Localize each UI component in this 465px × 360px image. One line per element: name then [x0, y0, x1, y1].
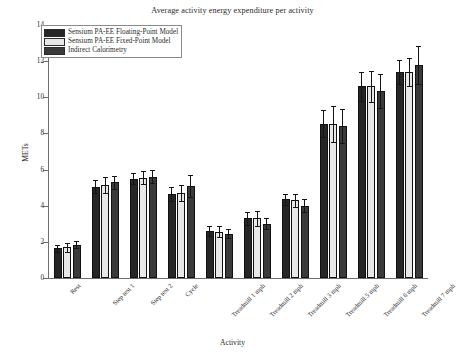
bar[interactable]	[111, 182, 119, 278]
error-bar	[219, 226, 220, 237]
error-bar-cap-bottom	[103, 193, 108, 194]
bar[interactable]	[282, 199, 290, 278]
error-bar	[371, 71, 372, 102]
bar[interactable]	[291, 200, 299, 278]
error-bar	[399, 60, 400, 83]
error-bar-cap-top	[179, 185, 184, 186]
error-bar	[105, 177, 106, 193]
bar[interactable]	[405, 72, 413, 278]
bar[interactable]	[339, 126, 347, 278]
error-bar	[323, 110, 324, 137]
x-axis-label: Activity	[0, 338, 465, 347]
bar[interactable]	[253, 218, 261, 278]
error-bar-cap-bottom	[150, 183, 155, 184]
legend-item[interactable]: Indirect Calorimetry	[44, 46, 178, 55]
bar[interactable]	[149, 177, 157, 278]
error-bar-cap-bottom	[283, 205, 288, 206]
bar[interactable]	[329, 124, 337, 278]
error-bar-cap-top	[131, 173, 136, 174]
bar-group	[396, 25, 423, 278]
bar[interactable]	[177, 193, 185, 278]
bar[interactable]	[206, 231, 214, 278]
bar-group	[358, 25, 385, 278]
bar[interactable]	[168, 194, 176, 278]
bar-group	[206, 25, 233, 278]
error-bar	[152, 170, 153, 183]
error-bar	[209, 226, 210, 235]
error-bar-cap-bottom	[416, 84, 421, 85]
error-bar-cap-top	[255, 211, 260, 212]
error-bar-cap-top	[226, 229, 231, 230]
bar[interactable]	[73, 245, 81, 278]
y-tick-label: 0	[4, 274, 44, 282]
error-bar-cap-top	[169, 187, 174, 188]
error-bar	[57, 245, 58, 252]
x-tick-label: Treadmill 7 mph	[420, 282, 456, 318]
error-bar	[285, 194, 286, 205]
error-bar-cap-top	[283, 194, 288, 195]
error-bar-cap-top	[416, 46, 421, 47]
error-bar	[380, 74, 381, 108]
bar[interactable]	[367, 86, 375, 278]
error-bar-cap-bottom	[369, 102, 374, 103]
bar[interactable]	[130, 179, 138, 278]
bar[interactable]	[244, 218, 252, 278]
error-bar-cap-bottom	[302, 212, 307, 213]
y-tick-label: 14	[4, 21, 44, 29]
y-tick-label: 8	[4, 129, 44, 137]
error-bar-cap-top	[217, 226, 222, 227]
chart-legend[interactable]: Sensium PA-EE Floating-Point ModelSensiu…	[41, 25, 182, 58]
bar[interactable]	[225, 234, 233, 278]
bar[interactable]	[187, 186, 195, 278]
error-bar	[181, 185, 182, 201]
bar[interactable]	[358, 86, 366, 278]
bar[interactable]	[215, 232, 223, 278]
error-bar	[295, 194, 296, 207]
legend-item[interactable]: Sensium PA-EE Floating-Point Model	[44, 28, 178, 37]
bar-group	[54, 25, 81, 278]
bar-group	[168, 25, 195, 278]
bar[interactable]	[396, 72, 404, 278]
x-tick-label: Treadmill 3 mph	[306, 282, 342, 318]
x-tick-label: Treadmill 5 mph	[344, 282, 380, 318]
x-axis-line	[48, 278, 428, 279]
x-tick-label: Step test 1	[111, 282, 135, 306]
error-bar-cap-top	[207, 226, 212, 227]
error-bar-cap-bottom	[245, 225, 250, 226]
error-bar-cap-top	[407, 58, 412, 59]
error-bar-cap-top	[188, 175, 193, 176]
error-bar-cap-bottom	[378, 108, 383, 109]
bar[interactable]	[415, 65, 423, 278]
error-bar-cap-bottom	[359, 101, 364, 102]
error-bar	[143, 171, 144, 184]
error-bar-cap-bottom	[407, 86, 412, 87]
figure-canvas: Average activity energy expenditure per …	[0, 0, 465, 360]
y-tick-label: 6	[4, 166, 44, 174]
bar-group	[92, 25, 119, 278]
bar[interactable]	[139, 178, 147, 278]
legend-item[interactable]: Sensium PA-EE Fixed-Point Model	[44, 37, 178, 46]
error-bar	[190, 175, 191, 197]
error-bar-cap-top	[321, 110, 326, 111]
y-tick-label: 2	[4, 238, 44, 246]
error-bar-cap-bottom	[226, 238, 231, 239]
bar[interactable]	[377, 91, 385, 278]
error-bar	[361, 72, 362, 101]
error-bar-cap-top	[340, 109, 345, 110]
error-bar-cap-top	[150, 170, 155, 171]
bar[interactable]	[92, 187, 100, 278]
bar[interactable]	[263, 224, 271, 278]
legend-label: Sensium PA-EE Fixed-Point Model	[68, 37, 171, 46]
error-bar-cap-bottom	[65, 252, 70, 253]
bar-group	[320, 25, 347, 278]
bar[interactable]	[101, 185, 109, 278]
x-tick-label: Rest	[68, 282, 81, 295]
bar[interactable]	[320, 124, 328, 279]
error-bar	[133, 173, 134, 184]
legend-label: Sensium PA-EE Floating-Point Model	[68, 28, 178, 37]
x-tick-label: Treadmill 6 mph	[382, 282, 418, 318]
chart-title: Average activity energy expenditure per …	[0, 6, 465, 15]
bar[interactable]	[301, 206, 309, 278]
error-bar-cap-bottom	[293, 207, 298, 208]
x-tick-label: Treadmill 1 mph	[230, 282, 266, 318]
